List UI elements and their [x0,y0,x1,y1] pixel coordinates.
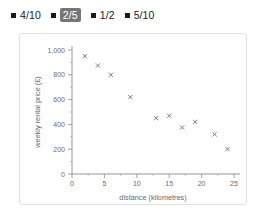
legend-option-label: 4/10 [20,9,41,21]
legend-option-bar: 4/102/51/25/10 [0,0,258,30]
x-axis-title: distance (kilometres) [119,193,186,202]
data-point [154,116,158,120]
data-point [128,95,132,99]
scatter-chart: 02004006008001,000 0510152025 distance (… [20,34,248,206]
y-tick-label: 800 [53,71,65,78]
data-point [225,147,229,151]
data-point [83,54,87,58]
y-tick-label: 1,000 [47,47,65,54]
x-tick-label: 25 [230,180,238,187]
y-axis-ticks: 02004006008001,000 [47,47,72,178]
chart-card: 02004006008001,000 0510152025 distance (… [19,33,247,205]
legend-option-label: 2/5 [60,8,81,22]
legend-option-label: 1/2 [100,9,115,21]
x-tick-label: 15 [165,180,173,187]
square-marker [91,13,96,18]
legend-option-4-10[interactable]: 4/10 [8,8,44,22]
legend-option-5-10[interactable]: 5/10 [122,8,158,22]
y-tick-label: 400 [53,121,65,128]
square-marker [51,13,56,18]
y-tick-label: 600 [53,96,65,103]
data-point [109,73,113,77]
square-marker [125,13,130,18]
x-tick-label: 20 [198,180,206,187]
data-point [212,132,216,136]
x-tick-label: 0 [70,180,74,187]
square-marker [11,13,16,18]
x-tick-label: 10 [133,180,141,187]
x-tick-label: 5 [102,180,106,187]
data-point [180,125,184,129]
y-tick-label: 200 [53,146,65,153]
data-points [83,54,230,151]
x-axis-ticks: 0510152025 [70,174,238,187]
data-point [167,114,171,118]
y-axis-title: weekly rental price (£) [33,76,42,148]
legend-option-label: 5/10 [134,9,155,21]
legend-option-1-2[interactable]: 1/2 [88,8,118,22]
data-point [96,63,100,67]
legend-option-2-5[interactable]: 2/5 [48,7,84,23]
data-point [193,120,197,124]
y-tick-label: 0 [61,171,65,178]
